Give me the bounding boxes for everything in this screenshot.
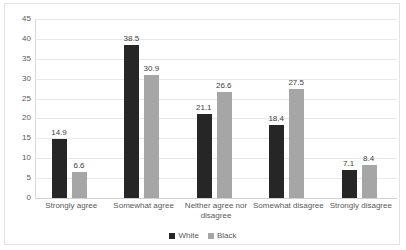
y-tick-label: 20 xyxy=(7,114,31,122)
legend-item-white[interactable]: White xyxy=(169,232,198,240)
y-tick-label: 5 xyxy=(7,174,31,182)
bar-white[interactable] xyxy=(269,125,284,198)
bar-white[interactable] xyxy=(197,114,212,198)
legend-label: Black xyxy=(217,232,237,240)
x-axis-category-labels: Strongly agreeSomewhat agreeNeither agre… xyxy=(35,201,397,225)
bar-black[interactable] xyxy=(289,89,304,198)
bar-value-label: 38.5 xyxy=(114,34,148,43)
bar-white[interactable] xyxy=(342,170,357,198)
plot-area: 14.96.638.530.921.126.618.427.57.18.4 xyxy=(35,19,397,198)
bar-value-label: 27.5 xyxy=(279,78,313,87)
bar-black[interactable] xyxy=(144,75,159,198)
legend-item-black[interactable]: Black xyxy=(208,232,237,240)
legend-swatch-icon xyxy=(208,233,214,239)
bar-value-label: 21.1 xyxy=(187,103,221,112)
legend-label: White xyxy=(178,232,198,240)
bar-group: 14.96.6 xyxy=(35,19,107,198)
category-label-line: Strongly agree xyxy=(35,201,107,211)
bar-group: 18.427.5 xyxy=(252,19,324,198)
bar-value-label: 18.4 xyxy=(259,114,293,123)
y-tick-label: 30 xyxy=(7,75,31,83)
category-label-line: Neither agree nor xyxy=(180,201,252,211)
chart-frame: 454035302520151050 14.96.638.530.921.126… xyxy=(4,3,400,245)
bar-value-label: 30.9 xyxy=(134,64,168,73)
bar-value-label: 6.6 xyxy=(62,161,96,170)
y-tick-label: 45 xyxy=(7,15,31,23)
category-label: Strongly disagree xyxy=(325,201,397,211)
bar-group: 21.126.6 xyxy=(180,19,252,198)
bar-black[interactable] xyxy=(217,92,232,198)
category-label: Somewhat disagree xyxy=(252,201,324,211)
category-label-line: Strongly disagree xyxy=(325,201,397,211)
bar-group: 38.530.9 xyxy=(107,19,179,198)
category-label: Neither agree nordisagree xyxy=(180,201,252,221)
bar-value-label: 14.9 xyxy=(42,128,76,137)
legend-swatch-icon xyxy=(169,233,175,239)
bar-value-label: 26.6 xyxy=(207,81,241,90)
y-tick-label: 35 xyxy=(7,55,31,63)
category-label-line: disagree xyxy=(180,211,252,221)
y-axis-tick-labels: 454035302520151050 xyxy=(5,19,31,199)
y-tick-label: 25 xyxy=(7,95,31,103)
category-label: Strongly agree xyxy=(35,201,107,211)
category-label-line: Somewhat agree xyxy=(107,201,179,211)
bar-black[interactable] xyxy=(362,165,377,198)
y-tick-label: 0 xyxy=(7,194,31,202)
y-tick-label: 10 xyxy=(7,154,31,162)
bar-group: 7.18.4 xyxy=(325,19,397,198)
category-label-line: Somewhat disagree xyxy=(252,201,324,211)
y-tick-label: 15 xyxy=(7,134,31,142)
y-tick-label: 40 xyxy=(7,35,31,43)
gridline xyxy=(35,198,397,199)
bar-value-label: 8.4 xyxy=(352,154,386,163)
chart-legend: WhiteBlack xyxy=(5,232,401,240)
category-label: Somewhat agree xyxy=(107,201,179,211)
bar-black[interactable] xyxy=(72,172,87,198)
